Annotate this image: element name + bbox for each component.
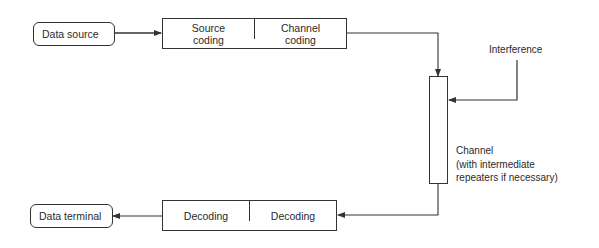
source-coding-cell: Source coding	[163, 19, 254, 48]
data-terminal-node: Data terminal	[30, 204, 113, 228]
data-terminal-label: Data terminal	[39, 210, 101, 222]
data-source-node: Data source	[33, 22, 115, 46]
decoding-cell-1: Decoding	[163, 201, 249, 230]
data-source-label: Data source	[42, 28, 99, 40]
channel-label: Channel (with intermediate repeaters if …	[456, 144, 558, 185]
decoder-node: Decoding Decoding	[162, 200, 337, 231]
interference-label: Interference	[489, 43, 542, 57]
arrow-channel-to-decoder	[338, 184, 438, 215]
channel-node	[429, 76, 448, 184]
encoder-node: Source coding Channel coding	[162, 18, 347, 49]
arrow-interference-to-channel	[449, 60, 517, 100]
arrow-encoder-to-channel	[346, 33, 438, 76]
channel-coding-cell: Channel coding	[255, 19, 346, 48]
decoding-cell-2: Decoding	[250, 201, 336, 230]
